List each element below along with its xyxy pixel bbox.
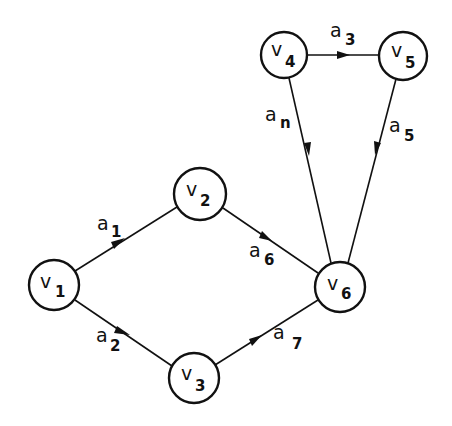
edge-sub-a1: 1 <box>111 223 121 241</box>
edge-a7: a 7 <box>215 300 318 365</box>
arrowhead-a7-icon <box>249 335 262 346</box>
edge-sub-an: n <box>280 114 291 132</box>
edge-sub-a7: 7 <box>292 335 302 353</box>
node-circle-v3 <box>169 353 219 403</box>
node-circle-v1 <box>29 260 79 310</box>
node-sub-v5: 5 <box>405 54 415 72</box>
edge-label-a6: a <box>249 239 261 261</box>
edge-label-an: a <box>265 103 277 125</box>
node-label-v3: v <box>181 362 192 384</box>
edge-sub-a3: 3 <box>345 31 355 49</box>
node-v6: v 6 <box>315 262 365 312</box>
edge-label-a5: a <box>389 114 401 136</box>
edges: a 1 a 2 a 3 a n a 5 <box>75 19 414 366</box>
edge-label-a1: a <box>97 212 109 234</box>
node-label-v4: v <box>271 38 282 60</box>
node-sub-v3: 3 <box>195 377 205 395</box>
edge-line-an <box>289 78 331 263</box>
node-label-v2: v <box>186 178 197 200</box>
node-v4: v 4 <box>261 32 307 78</box>
edge-sub-a2: 2 <box>110 337 120 355</box>
node-label-v5: v <box>391 39 402 61</box>
edge-label-a2: a <box>96 324 108 346</box>
node-circle-v6 <box>315 262 365 312</box>
node-sub-v1: 1 <box>55 283 65 301</box>
node-circle-v5 <box>379 32 427 80</box>
node-v1: v 1 <box>29 260 79 310</box>
node-sub-v2: 2 <box>200 192 210 210</box>
node-label-v6: v <box>327 272 338 294</box>
node-v3: v 3 <box>169 353 219 403</box>
nodes: v 1 v 2 v 3 v 4 v 5 v 6 <box>29 32 427 403</box>
node-circle-v4 <box>261 32 307 78</box>
edge-label-a7: a <box>273 321 285 343</box>
edge-line-a7 <box>215 300 318 365</box>
node-v2: v 2 <box>174 168 226 220</box>
edge-a1: a 1 <box>75 207 177 271</box>
edge-a2: a 2 <box>75 300 172 366</box>
arrowhead-a3-icon <box>337 51 350 59</box>
node-sub-v4: 4 <box>285 53 295 71</box>
node-v5: v 5 <box>379 32 427 80</box>
edge-line-a1 <box>75 207 177 271</box>
edge-a3: a 3 <box>307 19 379 59</box>
edge-line-a5 <box>348 79 396 263</box>
node-label-v1: v <box>40 270 51 292</box>
directed-graph-diagram: a 1 a 2 a 3 a n a 5 <box>0 0 452 426</box>
arrowhead-a6-icon <box>259 231 272 241</box>
edge-label-a3: a <box>330 19 342 41</box>
edge-a6: a 6 <box>223 208 318 273</box>
edge-sub-a6: 6 <box>264 251 274 269</box>
node-sub-v6: 6 <box>341 285 351 303</box>
edge-a5: a 5 <box>348 79 414 263</box>
edge-an: a n <box>265 78 331 263</box>
edge-sub-a5: 5 <box>404 127 414 145</box>
